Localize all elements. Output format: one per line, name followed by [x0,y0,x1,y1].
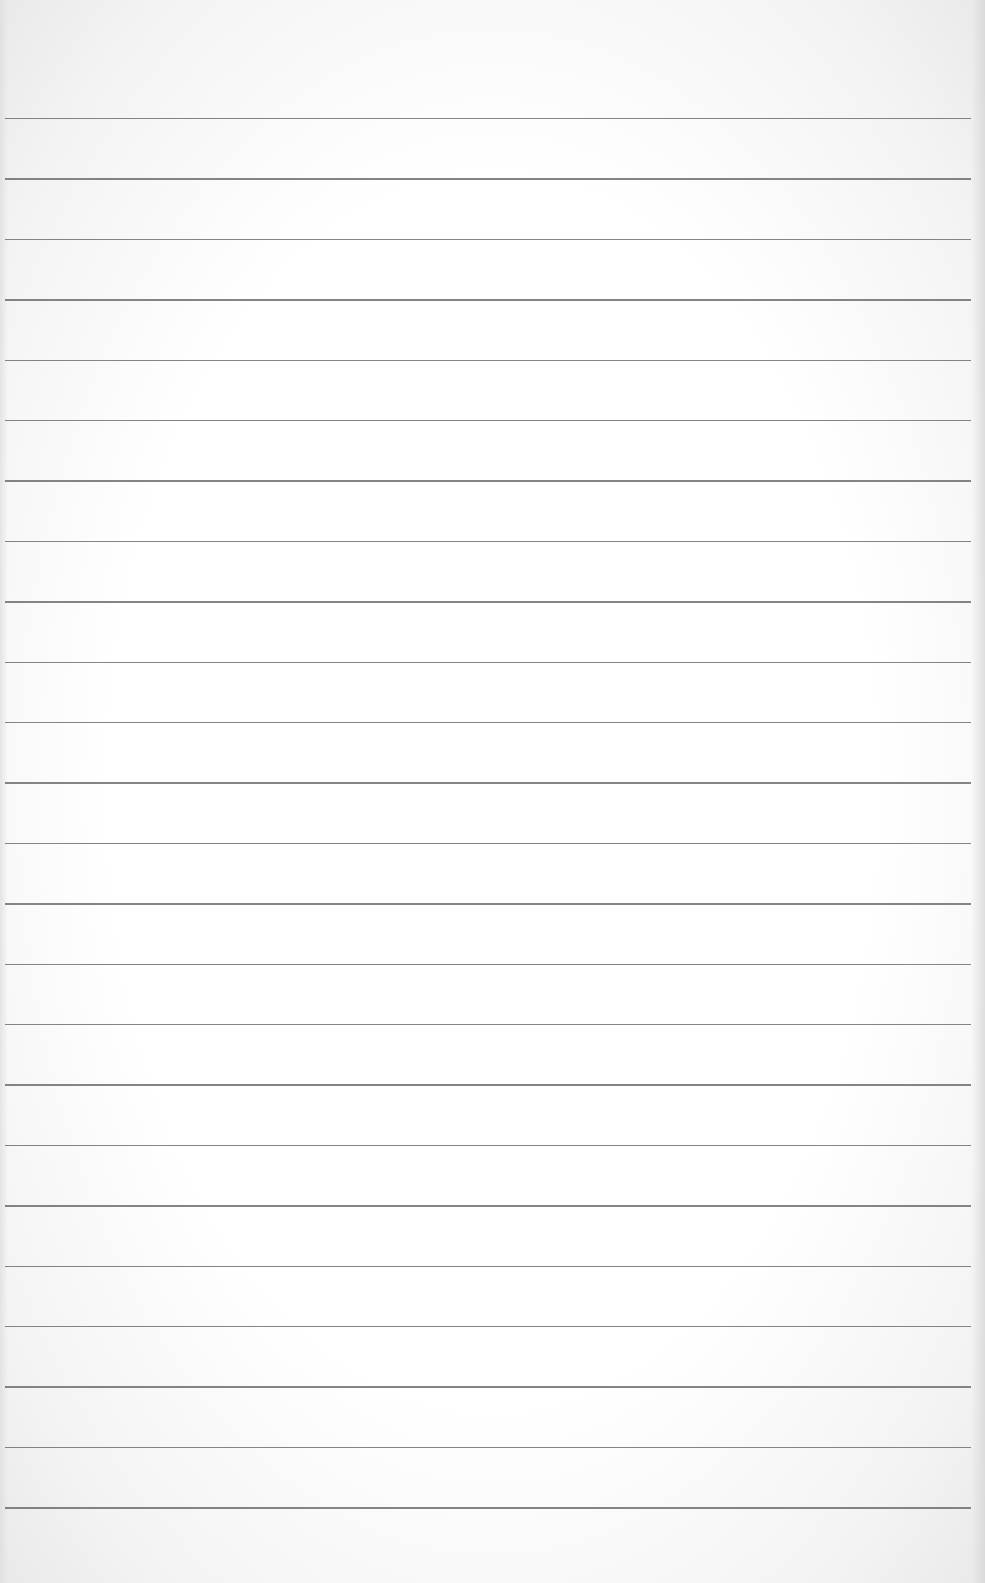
ruled-line [5,299,971,300]
ruled-line [5,420,971,421]
ruled-line [5,1145,971,1146]
paper-right-edge-shadow [971,0,985,1583]
ruled-line [5,662,971,663]
ruled-line [5,239,971,240]
ruled-line [5,541,971,542]
ruled-line [5,1266,971,1267]
ruled-line [5,1084,971,1085]
ruled-line [5,722,971,723]
lined-paper [0,0,985,1583]
ruled-line [5,1024,971,1025]
ruled-line [5,480,971,481]
ruled-line [5,601,971,602]
ruled-line [5,178,971,179]
ruled-line [5,1386,971,1387]
ruled-line [5,843,971,844]
ruled-line [5,1447,971,1448]
ruled-line [5,1326,971,1327]
ruled-line [5,360,971,361]
ruled-line [5,903,971,904]
ruled-line [5,1507,971,1508]
paper-left-edge-shadow [0,0,8,1583]
ruled-line [5,782,971,783]
ruled-line [5,964,971,965]
ruled-line [5,1205,971,1206]
ruled-line [5,118,971,119]
